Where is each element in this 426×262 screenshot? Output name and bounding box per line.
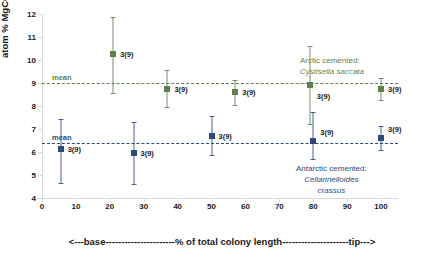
- error-bar-cap-hi: [379, 78, 384, 79]
- mean-line-antarctic: [42, 143, 398, 144]
- x-tick-label: 40: [173, 202, 182, 211]
- error-bar-cap-hi: [311, 112, 316, 113]
- y-tick-mark: [38, 129, 42, 130]
- error-bar-cap-hi: [58, 119, 63, 120]
- x-tick-label: 60: [241, 202, 250, 211]
- error-bar-cap-lo: [379, 150, 384, 151]
- data-marker: [131, 150, 137, 156]
- error-bar-cap-hi: [209, 116, 214, 117]
- x-tick-label: 70: [275, 202, 284, 211]
- error-bar-cap-hi: [131, 122, 136, 123]
- error-bar-cap-lo: [209, 155, 214, 156]
- y-tick-mark: [38, 175, 42, 176]
- data-point-label: 3(9): [388, 85, 401, 94]
- data-point-label: 3(9): [320, 127, 333, 136]
- legend-antarctic-line1: Antarctic cemented:: [296, 163, 367, 174]
- chart-figure: atom % MgCO3 <---base-------------------…: [0, 0, 426, 262]
- legend-antarctic-line2: Cellarinelloides: [296, 174, 367, 185]
- x-tick-label: 20: [105, 202, 114, 211]
- data-marker: [110, 51, 116, 57]
- error-bar-cap-lo: [311, 159, 316, 160]
- x-axis-title: <---base----------------------% of total…: [42, 236, 402, 247]
- data-point-label: 3(9): [219, 131, 232, 140]
- error-bar-cap-hi: [379, 126, 384, 127]
- y-tick-label: 6: [32, 148, 36, 157]
- legend-arctic-line2: Cystisella saccata: [300, 66, 364, 77]
- legend-arctic: Arctic cemented: Cystisella saccata: [300, 55, 364, 77]
- data-point-label: 3(9): [174, 85, 187, 94]
- y-axis-line: [42, 14, 43, 198]
- y-tick-label: 12: [27, 10, 36, 19]
- legend-arctic-line1: Arctic cemented:: [300, 55, 364, 66]
- data-marker: [209, 133, 215, 139]
- x-tick-label: 0: [40, 202, 44, 211]
- legend-antarctic: Antarctic cemented: Cellarinelloides cra…: [296, 163, 367, 196]
- y-tick-label: 4: [32, 194, 36, 203]
- y-tick-label: 5: [32, 171, 36, 180]
- data-point-label: 3(9): [68, 144, 81, 153]
- error-bar: [313, 112, 314, 159]
- error-bar-cap-lo: [379, 100, 384, 101]
- error-bar-cap-hi: [111, 17, 116, 18]
- error-bar-cap-lo: [111, 93, 116, 94]
- data-marker: [58, 146, 64, 152]
- error-bar-cap-hi: [307, 46, 312, 47]
- data-point-label: 3(9): [242, 88, 255, 97]
- y-tick-label: 8: [32, 102, 36, 111]
- data-marker: [310, 138, 316, 144]
- x-tick-label: 100: [374, 202, 387, 211]
- error-bar-cap-lo: [131, 184, 136, 185]
- error-bar-cap-hi: [165, 70, 170, 71]
- data-point-label: 3(9): [388, 124, 401, 133]
- data-point-label: 3(9): [141, 149, 154, 158]
- mean-line-arctic: [42, 83, 398, 84]
- x-tick-label: 30: [139, 202, 148, 211]
- data-marker: [307, 82, 313, 88]
- error-bar-cap-lo: [307, 124, 312, 125]
- error-bar-cap-lo: [58, 183, 63, 184]
- y-axis-title: atom % MgCO3: [0, 0, 10, 58]
- y-tick-mark: [38, 37, 42, 38]
- x-tick-label: 50: [207, 202, 216, 211]
- y-tick-label: 7: [32, 125, 36, 134]
- error-bar-cap-hi: [233, 80, 238, 81]
- y-tick-label: 10: [27, 56, 36, 65]
- mean-label-antarctic: mean: [52, 133, 72, 142]
- y-tick-label: 9: [32, 79, 36, 88]
- y-tick-mark: [38, 14, 42, 15]
- x-tick-label: 10: [71, 202, 80, 211]
- x-axis-line: [42, 198, 398, 199]
- data-point-label: 3(9): [120, 50, 133, 59]
- data-point-label: 3(9): [317, 92, 330, 101]
- data-marker: [164, 86, 170, 92]
- error-bar-cap-lo: [165, 107, 170, 108]
- y-tick-label: 11: [28, 33, 36, 42]
- y-tick-mark: [38, 152, 42, 153]
- error-bar-cap-lo: [233, 105, 238, 106]
- mean-label-arctic: mean: [52, 73, 72, 82]
- legend-antarctic-line3: crassus: [296, 185, 367, 196]
- x-tick-label: 90: [343, 202, 352, 211]
- data-marker: [378, 86, 384, 92]
- data-marker: [378, 135, 384, 141]
- y-tick-mark: [38, 106, 42, 107]
- x-tick-label: 80: [309, 202, 318, 211]
- y-tick-mark: [38, 60, 42, 61]
- data-marker: [232, 89, 238, 95]
